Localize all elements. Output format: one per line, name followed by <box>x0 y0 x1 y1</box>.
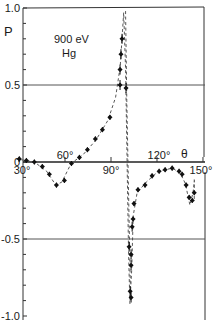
data-point <box>130 224 135 229</box>
theory-dashed-line-branch <box>126 11 131 301</box>
data-point <box>62 178 67 183</box>
y-tick-label: -1.0 <box>1 310 20 321</box>
x-tick-label: 90° <box>103 164 120 176</box>
annotation-element: Hg <box>62 47 76 59</box>
data-point <box>93 136 98 141</box>
data-point <box>170 166 175 171</box>
data-point <box>192 190 197 195</box>
data-point <box>177 169 182 174</box>
data-point <box>118 52 123 57</box>
data-point <box>129 252 134 257</box>
data-point <box>131 216 136 221</box>
data-point <box>128 289 133 294</box>
data-point <box>127 244 132 249</box>
annotation-energy: 900 eV <box>54 33 90 45</box>
data-point <box>135 187 140 192</box>
data-point <box>150 173 155 178</box>
data-point <box>32 159 37 164</box>
y-axis-label: P <box>4 24 13 39</box>
data-point <box>163 167 168 172</box>
data-point <box>119 36 124 41</box>
data-point <box>117 67 122 72</box>
data-point <box>85 147 90 152</box>
top-border <box>23 7 204 8</box>
data-point <box>157 169 162 174</box>
x-tick-label: 150° <box>190 164 213 176</box>
data-point <box>107 115 112 120</box>
y-tick-label: 0.5 <box>5 79 20 91</box>
data-point <box>187 195 192 200</box>
x-tick-label: 30° <box>14 164 31 176</box>
data-point <box>129 263 134 268</box>
data-point <box>40 164 45 169</box>
data-point <box>117 82 122 87</box>
x-tick-label: 60° <box>57 149 74 161</box>
y-tick-label: -0.5 <box>1 233 20 245</box>
reference-lines <box>23 85 205 239</box>
data-point <box>100 127 105 132</box>
data-point <box>123 86 128 91</box>
x-tick-label: 120° <box>148 149 171 161</box>
data-point <box>142 183 147 188</box>
y-tick-label: 1.0 <box>5 2 20 14</box>
polarization-chart: 1.00.50-0.5-1.0 30°60°90°120°150° P θ 90… <box>0 0 216 321</box>
x-axis-label: θ <box>181 147 188 161</box>
data-point <box>54 183 59 188</box>
data-point <box>184 183 189 188</box>
